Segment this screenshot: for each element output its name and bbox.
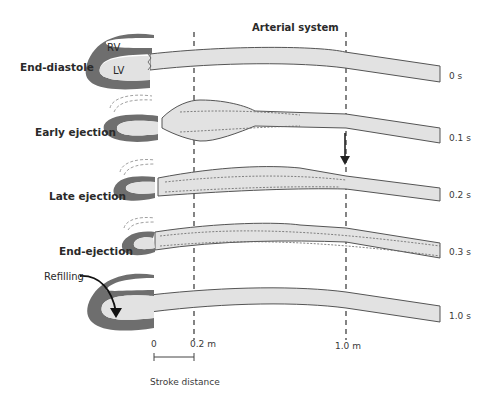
time-label-2: 0.2 s xyxy=(449,190,471,200)
row-early-ejection xyxy=(104,95,440,143)
stage-label-end-ejection: End-ejection xyxy=(59,245,133,257)
stage-label-early-ejection: Early ejection xyxy=(35,126,116,138)
lv-label: LV xyxy=(113,65,124,76)
row-end-ejection xyxy=(122,217,440,258)
time-label-0: 0 s xyxy=(449,71,463,81)
rv-label: RV xyxy=(107,42,120,53)
stroke-distance-label: Stroke distance xyxy=(150,377,220,387)
row-late-ejection xyxy=(113,160,440,202)
down-arrow-icon xyxy=(340,156,350,165)
stage-label-late-ejection: Late ejection xyxy=(49,190,126,202)
arterial-system-title: Arterial system xyxy=(252,22,339,33)
stroke-distance-diagram: Arterial system RV LV End-diastole Early… xyxy=(0,0,484,401)
stage-label-refilling: Refilling xyxy=(44,271,84,282)
marker-label-0-2m: 0.2 m xyxy=(190,339,216,349)
time-label-3: 0.3 s xyxy=(449,247,471,257)
marker-label-1-0m: 1.0 m xyxy=(335,341,361,351)
row-end-diastole xyxy=(86,34,440,90)
stage-label-end-diastole: End-diastole xyxy=(20,61,94,73)
row-refilling xyxy=(80,274,440,331)
time-label-1: 0.1 s xyxy=(449,133,471,143)
time-label-4: 1.0 s xyxy=(449,311,471,321)
marker-label-zero: 0 xyxy=(151,339,157,349)
